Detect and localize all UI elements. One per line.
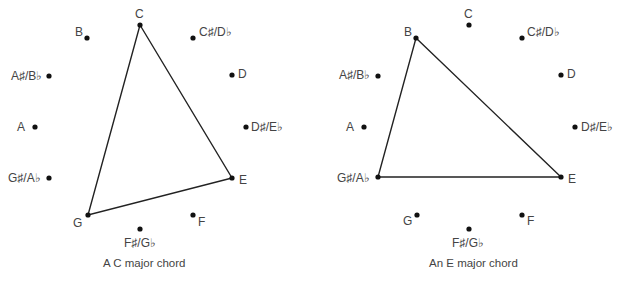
note-dots xyxy=(32,22,248,231)
note-label-a: A xyxy=(17,120,25,134)
e-major-triangle xyxy=(378,38,561,177)
note-label-e: E xyxy=(568,172,576,186)
note-label-a-sharp: A♯/B♭ xyxy=(11,69,42,83)
note-label-c: C xyxy=(464,7,473,21)
note-label-d: D xyxy=(567,67,576,81)
note-label-c-sharp: C♯/D♭ xyxy=(199,25,232,39)
note-label-a-sharp: A♯/B♭ xyxy=(339,68,370,82)
note-label-g: G xyxy=(403,214,412,228)
note-label-f: F xyxy=(527,214,534,228)
note-label-b: B xyxy=(75,25,83,39)
e-major-chord-diagram: C C♯/D♭ D D♯/E♭ E F F♯/G♭ G G♯/A♭ A A♯/B… xyxy=(310,0,620,285)
note-label-c: C xyxy=(135,7,144,21)
diagram-caption: An E major chord xyxy=(429,256,518,270)
note-label-f: F xyxy=(198,215,205,229)
note-label-f-sharp: F♯/G♭ xyxy=(124,236,156,250)
note-label-g-sharp: G♯/A♭ xyxy=(337,171,370,185)
c-major-chord-diagram: C C♯/D♭ D D♯/E♭ E F F♯/G♭ G G♯/A♭ A A♯/B… xyxy=(0,0,310,285)
note-dots xyxy=(361,22,577,231)
note-label-e: E xyxy=(239,173,247,187)
note-label-b: B xyxy=(404,25,412,39)
note-label-d-sharp: D♯/E♭ xyxy=(581,120,613,134)
note-label-d: D xyxy=(238,67,247,81)
note-label-g: G xyxy=(73,216,82,230)
note-label-a: A xyxy=(346,120,354,134)
note-label-d-sharp: D♯/E♭ xyxy=(251,120,283,134)
note-label-f-sharp: F♯/G♭ xyxy=(452,236,484,250)
diagram-caption: A C major chord xyxy=(103,256,185,270)
c-major-triangle xyxy=(88,25,232,215)
note-label-c-sharp: C♯/D♭ xyxy=(527,25,560,39)
note-label-g-sharp: G♯/A♭ xyxy=(8,171,41,185)
